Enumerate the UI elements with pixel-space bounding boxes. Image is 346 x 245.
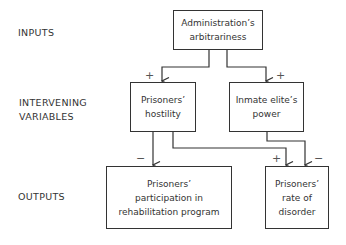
node-participation: Prisoners’ participation in rehabilitati… xyxy=(106,166,232,229)
sign-hostility-participation: − xyxy=(136,153,145,164)
sign-admin-hostility: + xyxy=(145,70,154,81)
node-participation-text: Prisoners’ participation in rehabilitati… xyxy=(118,177,219,219)
node-admin-text: Administration’s arbitrariness xyxy=(181,16,254,44)
edge-admin-elite xyxy=(227,49,266,81)
node-hostility-text: Prisoners’ hostility xyxy=(141,93,185,121)
node-disorder-text: Prisoners’ rate of disorder xyxy=(275,177,319,219)
sign-elite-disorder: − xyxy=(314,153,323,164)
node-rate-of-disorder: Prisoners’ rate of disorder xyxy=(265,166,329,229)
edge-hostility-disorder xyxy=(173,131,286,165)
node-inmate-elite-power: Inmate elite’s power xyxy=(229,82,304,132)
node-elite-text: Inmate elite’s power xyxy=(236,93,298,121)
node-prisoners-hostility: Prisoners’ hostility xyxy=(130,82,196,132)
edge-admin-hostility xyxy=(162,49,209,81)
sign-hostility-disorder: + xyxy=(272,153,281,164)
node-admin-arbitrariness: Administration’s arbitrariness xyxy=(173,10,263,50)
sign-admin-elite: + xyxy=(276,70,285,81)
